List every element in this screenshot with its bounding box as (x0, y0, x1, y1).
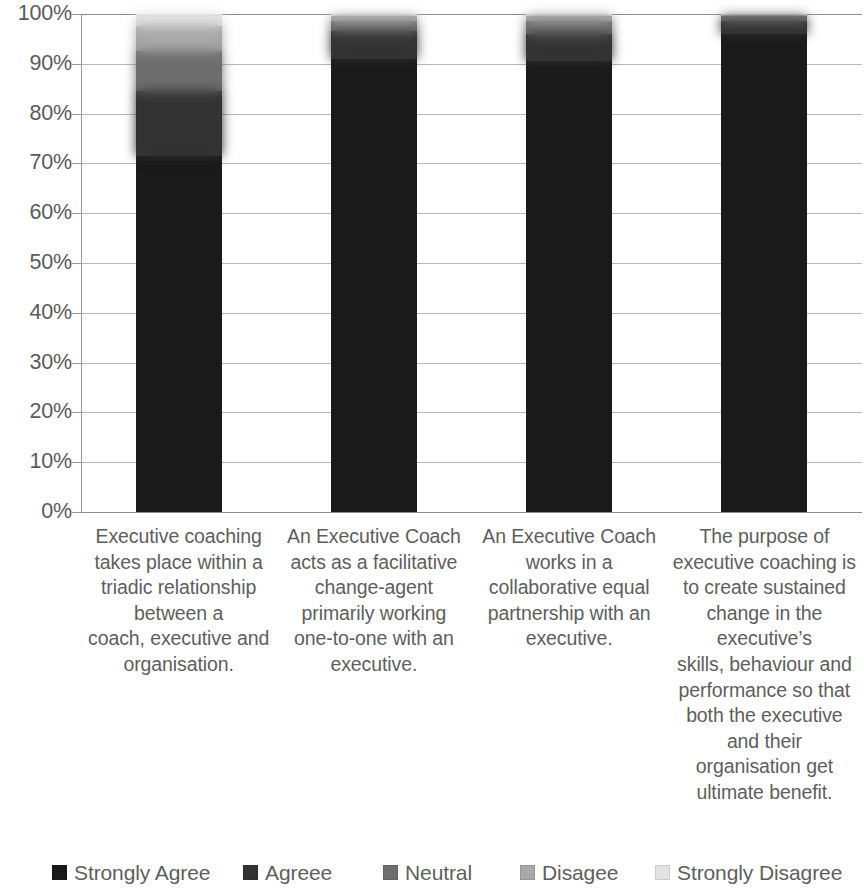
y-axis-tick-mark (72, 64, 81, 65)
scan-blur-overlay (331, 14, 417, 59)
y-axis-tick-label: 80% (2, 103, 72, 125)
category-label-line: acts as a facilitative (280, 550, 467, 576)
y-axis-tick-mark (72, 263, 81, 264)
legend-swatch-icon (52, 865, 67, 880)
gridline (81, 512, 862, 513)
y-axis-tick-label: 10% (2, 451, 72, 473)
category-label-line: coach, executive and (85, 626, 272, 652)
bar-segment (136, 156, 222, 512)
category-label-line: executive. (476, 626, 663, 652)
category-label-line: partnership with an (476, 601, 663, 627)
scan-blur-overlay (526, 14, 612, 61)
y-axis-tick-mark (72, 14, 81, 15)
scan-blur-overlay (136, 14, 222, 156)
category-label-line: The purpose of (671, 524, 858, 550)
bar-stack (331, 14, 417, 512)
y-axis-tick-label: 30% (2, 352, 72, 374)
y-axis-tick-label: 70% (2, 152, 72, 174)
bar-stack (136, 14, 222, 512)
category-label-line: triadic relationship (85, 575, 272, 601)
bars-layer (81, 14, 862, 512)
plot-region: 100%90%80%70%60%50%40%30%20%10%0% (0, 0, 864, 520)
x-axis-category-label: An Executive Coachworks in acollaborativ… (472, 524, 667, 652)
legend-swatch-icon (383, 865, 398, 880)
bar-group (472, 14, 667, 512)
category-label-line: change-agent (280, 575, 467, 601)
category-label-line: ultimate benefit. (671, 780, 858, 806)
y-axis-tick-mark (72, 462, 81, 463)
legend-label: Strongly Agree (74, 862, 210, 883)
category-label-line: both the executive (671, 703, 858, 729)
legend-label: Agreee (265, 862, 332, 883)
category-label-line: An Executive Coach (280, 524, 467, 550)
category-label-line: one-to-one with an (280, 626, 467, 652)
y-axis-tick-label: 50% (2, 252, 72, 274)
y-axis-tick-mark (72, 163, 81, 164)
category-label-line: change in the (671, 601, 858, 627)
category-label-line: between a (85, 601, 272, 627)
legend-item[interactable]: Strongly Agree (52, 857, 210, 887)
legend-item[interactable]: Strongly Disagree (655, 857, 842, 887)
stacked-bar-chart: 100%90%80%70%60%50%40%30%20%10%0% Execut… (0, 0, 864, 889)
y-axis-tick-mark (72, 412, 81, 413)
bar-segment (526, 61, 612, 512)
y-axis-tick-mark (72, 114, 81, 115)
legend-swatch-icon (655, 865, 670, 880)
x-axis-category-label: The purpose ofexecutive coaching isto cr… (667, 524, 862, 806)
scan-blur-overlay (721, 14, 807, 34)
bar-group (81, 14, 276, 512)
y-axis-tick-label: 60% (2, 202, 72, 224)
category-label-line: skills, behaviour and (671, 652, 858, 678)
category-label-line: Executive coaching (85, 524, 272, 550)
category-label-line: organisation. (85, 652, 272, 678)
y-axis-tick-mark (72, 363, 81, 364)
bar-group (667, 14, 862, 512)
category-label-line: executive coaching is (671, 550, 858, 576)
chart-legend: Strongly AgreeAgreeeNeutralDisageeStrong… (0, 857, 864, 889)
category-label-line: executive’s (671, 626, 858, 652)
bar-group (276, 14, 471, 512)
y-axis-tick-label: 20% (2, 401, 72, 423)
legend-label: Strongly Disagree (677, 862, 842, 883)
y-axis-tick-label: 90% (2, 53, 72, 75)
legend-swatch-icon (243, 865, 258, 880)
y-axis-tick-label: 0% (2, 501, 72, 523)
category-label-line: executive. (280, 652, 467, 678)
legend-item[interactable]: Agreee (243, 857, 332, 887)
bar-stack (526, 14, 612, 512)
y-axis-tick-label: 40% (2, 302, 72, 324)
category-label-line: works in a (476, 550, 663, 576)
legend-item[interactable]: Disagee (520, 857, 618, 887)
legend-label: Disagee (542, 862, 618, 883)
x-axis-category-label: An Executive Coachacts as a facilitative… (276, 524, 471, 678)
legend-swatch-icon (520, 865, 535, 880)
bar-stack (721, 14, 807, 512)
category-label-line: primarily working (280, 601, 467, 627)
bar-segment (721, 34, 807, 512)
y-axis: 100%90%80%70%60%50%40%30%20%10%0% (0, 0, 72, 520)
legend-item[interactable]: Neutral (383, 857, 472, 887)
y-axis-tick-mark (72, 313, 81, 314)
bar-segment (331, 59, 417, 512)
category-label-line: to create sustained (671, 575, 858, 601)
category-label-line: and their (671, 729, 858, 755)
legend-label: Neutral (405, 862, 472, 883)
y-axis-tick-mark (72, 512, 81, 513)
category-label-line: organisation get (671, 754, 858, 780)
category-label-line: takes place within a (85, 550, 272, 576)
category-label-line: collaborative equal (476, 575, 663, 601)
y-axis-tick-label: 100% (2, 3, 72, 25)
x-axis-category-labels: Executive coachingtakes place within atr… (81, 524, 862, 844)
x-axis-category-label: Executive coachingtakes place within atr… (81, 524, 276, 678)
category-label-line: An Executive Coach (476, 524, 663, 550)
category-label-line: performance so that (671, 678, 858, 704)
y-axis-tick-mark (72, 213, 81, 214)
